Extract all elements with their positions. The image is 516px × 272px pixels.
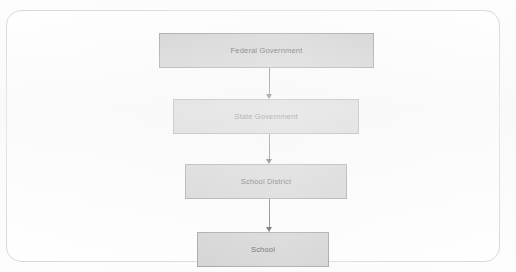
connector-school-district-to-school (265, 199, 274, 232)
node-school[interactable]: School (197, 232, 329, 267)
node-federal-government[interactable]: Federal Government (159, 33, 374, 68)
connector-line (269, 68, 270, 94)
connector-state-to-school-district (265, 134, 274, 164)
node-label: State Government (234, 113, 298, 121)
node-state-government[interactable]: State Government (173, 99, 359, 134)
node-school-district[interactable]: School District (185, 164, 347, 199)
diagram-canvas: Federal Government State Government Scho… (0, 0, 516, 272)
connector-federal-to-state (265, 68, 274, 99)
diagram-frame: Federal Government State Government Scho… (6, 10, 500, 262)
node-label: School (251, 246, 275, 254)
connector-line (269, 134, 270, 159)
node-label: Federal Government (231, 47, 303, 55)
connector-line (269, 199, 270, 227)
node-label: School District (241, 178, 291, 186)
